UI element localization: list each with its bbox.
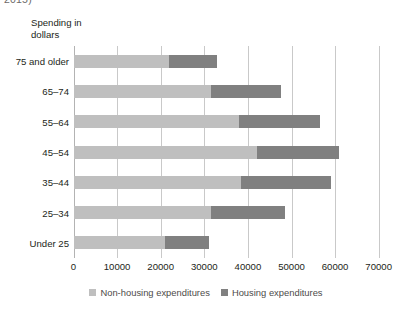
bar-segment-non-housing[interactable]	[74, 236, 166, 249]
legend-item-1[interactable]: Housing expenditures	[221, 287, 323, 298]
x-tick-label-20000: 20000	[147, 261, 174, 272]
bar-row[interactable]	[74, 115, 320, 128]
x-tick-label-30000: 30000	[191, 261, 218, 272]
x-axis-tick-labels: 010000200003000040000500006000070000	[0, 261, 412, 275]
bar-segment-housing[interactable]	[257, 146, 340, 159]
bar-row[interactable]	[74, 146, 340, 159]
caption-fragment: 2015)	[4, 0, 32, 5]
legend-label-1: Housing expenditures	[232, 287, 323, 298]
legend-swatch-housing	[221, 289, 228, 296]
bar-segment-housing[interactable]	[241, 176, 330, 189]
y-axis-label-2: 55–64	[0, 117, 69, 128]
bar-row[interactable]	[74, 55, 218, 68]
bar-segment-housing[interactable]	[211, 206, 285, 219]
bar-segment-housing[interactable]	[239, 115, 320, 128]
bar-segment-non-housing[interactable]	[74, 176, 242, 189]
bar-segment-non-housing[interactable]	[74, 146, 257, 159]
bar-segment-non-housing[interactable]	[74, 85, 211, 98]
bar-segment-housing[interactable]	[211, 85, 281, 98]
x-tick-label-60000: 60000	[322, 261, 349, 272]
y-axis-label-0: 75 and older	[0, 56, 69, 67]
bar-row[interactable]	[74, 206, 285, 219]
chart-plot-area	[74, 46, 379, 258]
bar-row[interactable]	[74, 236, 209, 249]
legend-label-0: Non-housing expenditures	[100, 287, 209, 298]
bar-segment-housing[interactable]	[169, 55, 217, 68]
bar-segment-non-housing[interactable]	[74, 206, 211, 219]
bar-row[interactable]	[74, 176, 331, 189]
bar-segment-housing[interactable]	[165, 236, 209, 249]
bar-segment-non-housing[interactable]	[74, 115, 240, 128]
y-axis-label-6: Under 25	[0, 238, 69, 249]
y-axis-label-3: 45–54	[0, 147, 69, 158]
legend-item-0[interactable]: Non-housing expenditures	[89, 287, 209, 298]
y-axis-title: Spending in dollars	[31, 17, 101, 40]
chart-legend: Non-housing expendituresHousing expendit…	[0, 287, 412, 298]
x-tick-label-70000: 70000	[365, 261, 392, 272]
legend-swatch-non-housing	[89, 289, 96, 296]
bar-segment-non-housing[interactable]	[74, 55, 170, 68]
y-axis-category-labels: 75 and older65–7455–6445–5435–4425–34Und…	[0, 46, 69, 258]
x-tick-label-50000: 50000	[278, 261, 305, 272]
y-axis-label-4: 35–44	[0, 177, 69, 188]
bar-row[interactable]	[74, 85, 281, 98]
x-tick-label-10000: 10000	[104, 261, 131, 272]
y-axis-label-1: 65–74	[0, 86, 69, 97]
gridline-70000	[379, 46, 380, 258]
x-tick-label-40000: 40000	[235, 261, 262, 272]
y-axis-label-5: 25–34	[0, 208, 69, 219]
bar-series-group	[74, 46, 379, 258]
x-tick-label-0: 0	[71, 261, 76, 272]
